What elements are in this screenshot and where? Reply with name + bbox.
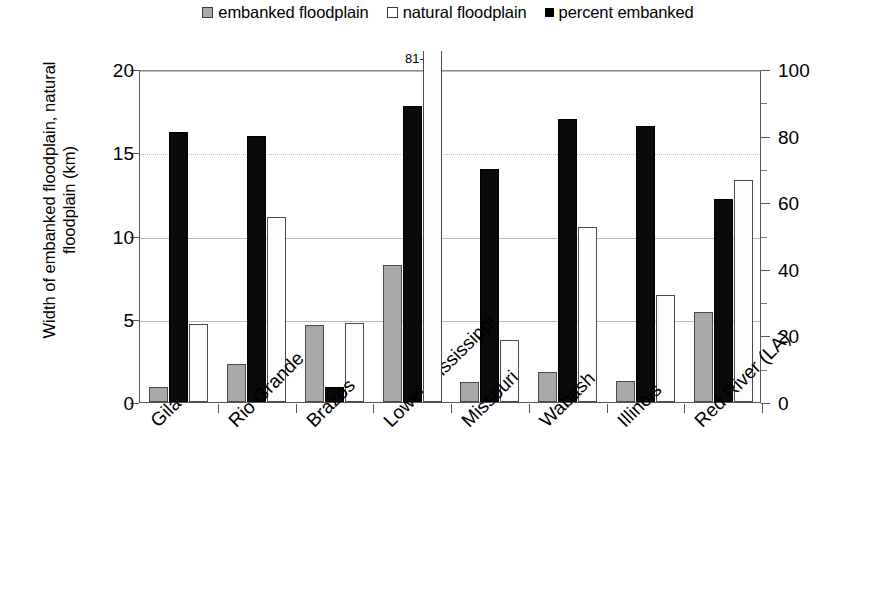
y-axis-right-tickmark — [761, 237, 767, 238]
bar-natural-floodplain[interactable] — [500, 340, 519, 402]
chart-legend: embanked floodplain natural floodplain p… — [0, 4, 896, 21]
white-square-icon — [387, 7, 398, 18]
y-axis-right-tickmark — [761, 70, 770, 71]
plot-area — [139, 70, 761, 403]
bar-percent-embanked[interactable] — [714, 199, 733, 402]
black-square-icon — [545, 8, 554, 17]
y-axis-right-tick-label: 40 — [778, 261, 838, 280]
bar-natural-floodplain[interactable] — [734, 180, 753, 402]
y-axis-right-tick-label: 20 — [778, 327, 838, 346]
legend-label-embanked-floodplain: embanked floodplain — [218, 4, 368, 21]
x-axis-tickmark — [451, 404, 452, 413]
bar-natural-floodplain[interactable] — [267, 217, 286, 402]
y-axis-right-tickmark — [761, 336, 770, 337]
bar-percent-embanked[interactable] — [558, 119, 577, 402]
bar-percent-embanked[interactable] — [325, 387, 344, 402]
x-axis-tickmark — [373, 404, 374, 413]
bar-embanked-floodplain[interactable] — [305, 325, 324, 402]
bar-embanked-floodplain[interactable] — [383, 265, 402, 402]
bar-natural-floodplain[interactable] — [578, 227, 597, 402]
y-axis-left-tick-label: 5 — [14, 311, 134, 330]
x-axis-tickmark — [762, 404, 763, 413]
bar-embanked-floodplain[interactable] — [538, 372, 557, 402]
bar-embanked-floodplain[interactable] — [616, 381, 635, 402]
chart-root: embanked floodplain natural floodplain p… — [0, 0, 896, 594]
legend-label-percent-embanked: percent embanked — [559, 4, 694, 21]
bar-natural-floodplain[interactable] — [345, 323, 364, 402]
y-axis-right-tickmark — [761, 403, 770, 404]
y-axis-right-tickmark — [761, 103, 767, 104]
legend-item-natural-floodplain: natural floodplain — [387, 4, 527, 21]
bar-group — [684, 69, 762, 402]
legend-item-percent-embanked: percent embanked — [545, 4, 694, 21]
bar-group — [607, 69, 685, 402]
x-axis-tickmark — [529, 404, 530, 413]
bar-percent-embanked[interactable] — [247, 136, 266, 402]
y-axis-right-tick-label: 100 — [778, 61, 838, 80]
bar-group — [296, 69, 374, 402]
bar-natural-floodplain[interactable] — [189, 324, 208, 402]
bar-percent-embanked[interactable] — [480, 169, 499, 402]
bar-group — [140, 69, 218, 402]
bar-embanked-floodplain[interactable] — [227, 364, 246, 402]
gray-square-icon — [202, 7, 213, 18]
y-axis-right-tick-label: 0 — [778, 394, 838, 413]
bar-embanked-floodplain[interactable] — [460, 382, 479, 402]
legend-label-natural-floodplain: natural floodplain — [403, 4, 527, 21]
bar-natural-floodplain[interactable] — [656, 295, 675, 402]
y-axis-right-tickmark — [761, 370, 767, 371]
bar-embanked-floodplain[interactable] — [149, 387, 168, 402]
bar-group — [451, 69, 529, 402]
bar-percent-embanked[interactable] — [169, 132, 188, 402]
bar-group — [373, 69, 451, 402]
y-axis-left-tick-label: 20 — [14, 61, 134, 80]
bar-embanked-floodplain[interactable] — [694, 312, 713, 402]
x-axis-tickmark — [218, 404, 219, 413]
y-axis-right-tickmark — [761, 170, 767, 171]
y-axis-right-tickmark — [761, 303, 767, 304]
y-axis-right-tick-label: 60 — [778, 194, 838, 213]
y-axis-right-tick-label: 80 — [778, 128, 838, 147]
y-axis-right-tickmark — [761, 203, 770, 204]
legend-item-embanked-floodplain: embanked floodplain — [202, 4, 368, 21]
y-axis-left-tick-label: 0 — [14, 394, 134, 413]
bar-group — [218, 69, 296, 402]
bar-group — [529, 69, 607, 402]
x-axis-tickmark — [607, 404, 608, 413]
bar-percent-embanked[interactable] — [636, 126, 655, 402]
x-axis-tickmark — [296, 404, 297, 413]
bar-natural-floodplain[interactable] — [423, 51, 442, 402]
y-axis-right-tickmark — [761, 137, 770, 138]
y-axis-right-tickmark — [761, 270, 770, 271]
y-axis-left-tick-label: 15 — [14, 144, 134, 163]
y-axis-left-tick-label: 10 — [14, 228, 134, 247]
bar-percent-embanked[interactable] — [403, 106, 422, 402]
x-axis-tickmark — [684, 404, 685, 413]
